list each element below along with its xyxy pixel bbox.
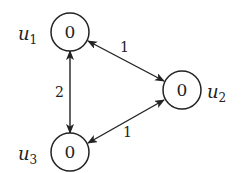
graph-diagram: 1 2 1 0 u1 0 u2 0 u3 bbox=[0, 0, 252, 173]
node-label: u2 bbox=[207, 81, 226, 105]
edge-weight-u1-u3: 2 bbox=[55, 84, 64, 100]
node-u2: 0 u2 bbox=[163, 71, 226, 109]
node-value: 0 bbox=[65, 142, 76, 162]
edge-weight-u3-u2: 1 bbox=[123, 124, 132, 140]
node-label: u1 bbox=[18, 23, 37, 47]
edge-weight-u1-u2: 1 bbox=[120, 39, 129, 55]
node-value: 0 bbox=[65, 22, 76, 42]
node-u1: 0 u1 bbox=[18, 13, 89, 51]
node-value: 0 bbox=[177, 80, 188, 100]
node-label: u3 bbox=[18, 143, 37, 167]
node-u3: 0 u3 bbox=[18, 133, 89, 171]
